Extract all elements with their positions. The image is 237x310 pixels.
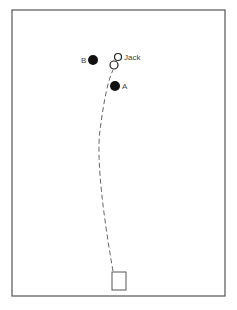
bowl-a bbox=[110, 81, 120, 91]
jack-marker bbox=[115, 54, 122, 61]
bowl-trajectory-dashed bbox=[99, 70, 113, 271]
green-frame bbox=[12, 10, 225, 296]
bowl-a-label: A bbox=[122, 82, 128, 91]
jack-label: Jack bbox=[124, 53, 141, 62]
bowl-b-label: B bbox=[81, 56, 86, 65]
delivery-mat bbox=[112, 272, 126, 290]
diagram-canvas: B Jack A bbox=[0, 0, 237, 310]
delivered-bowl-open bbox=[110, 61, 118, 69]
bowl-b bbox=[88, 55, 98, 65]
